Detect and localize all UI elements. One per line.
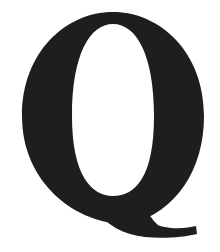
letter-q-glyph [0, 0, 220, 252]
letter-q-bowl [22, 12, 204, 224]
letter-q-svg [0, 0, 220, 252]
